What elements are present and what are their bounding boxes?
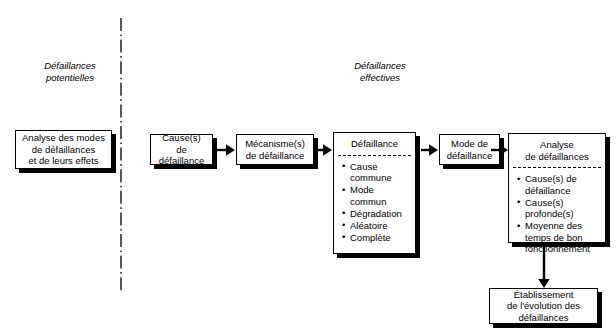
list-item: Dégradation	[342, 208, 411, 220]
box-etablissement-evolution: Établissement de l'évolution des défaill…	[489, 288, 598, 324]
box-etablissement-evolution-title: Établissement de l'évolution des défaill…	[490, 287, 597, 326]
arrow-analyse-to-etablissement	[536, 243, 552, 289]
box-mecanismes-defaillance: Mécanisme(s) de défaillance	[236, 134, 314, 165]
box-defaillance-list: Cause commune Mode commun Dégradation Al…	[334, 156, 415, 248]
box-analyse-defaillances: Analyse de défaillances Cause(s) de défa…	[508, 133, 606, 243]
box-analyse-defaillances-list: Cause(s) de défaillance Cause(s) profond…	[509, 168, 605, 259]
arrow-defaillance-to-mode	[421, 142, 439, 158]
box-causes-defaillance: Cause(s) de défaillance	[150, 134, 213, 165]
arrow-mode-to-analyse	[491, 142, 509, 158]
list-item: Cause(s) de défaillance	[517, 173, 601, 196]
list-item: Mode commun	[342, 184, 411, 207]
box-causes-defaillance-title: Cause(s) de défaillance	[151, 130, 212, 169]
box-analyse-modes-defaillances: Analyse des modes de défaillances et de …	[15, 130, 112, 169]
box-analyse-defaillances-title: Analyse de défaillances	[509, 134, 605, 166]
arrow-mecanismes-to-defaillance	[315, 142, 333, 158]
box-analyse-modes-defaillances-title: Analyse des modes de défaillances et de …	[16, 130, 111, 169]
list-item: Aléatoire	[342, 220, 411, 232]
list-item: Cause(s) profonde(s)	[517, 197, 601, 220]
list-item: Complète	[342, 232, 411, 244]
box-defaillance-title: Défaillance	[334, 133, 415, 154]
box-mecanismes-defaillance-title: Mécanisme(s) de défaillance	[237, 136, 313, 163]
arrow-causes-to-mecanismes	[214, 142, 236, 158]
section-header-effectives: Défaillances effectives	[300, 60, 460, 84]
diagram-canvas: Défaillances potentielles Défaillances e…	[0, 0, 616, 330]
section-header-potentielles: Défaillances potentielles	[20, 60, 120, 84]
list-item: Cause commune	[342, 161, 411, 184]
box-defaillance: Défaillance Cause commune Mode commun Dé…	[333, 132, 416, 254]
list-item: Moyenne des temps de bon fonctionnement	[517, 220, 601, 255]
